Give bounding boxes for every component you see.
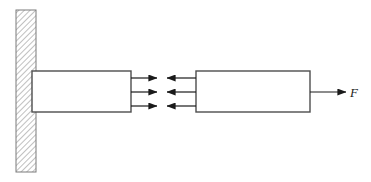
left-block bbox=[32, 71, 131, 112]
right-block-body bbox=[196, 71, 310, 112]
left-block-body bbox=[32, 71, 131, 112]
free-body-diagram: F bbox=[0, 0, 371, 182]
force-label-F: F bbox=[349, 85, 359, 100]
right-block bbox=[196, 71, 310, 112]
applied-force-arrow: F bbox=[310, 85, 359, 100]
diagram-canvas: F bbox=[0, 0, 371, 182]
contact-force-arrows bbox=[131, 78, 196, 106]
